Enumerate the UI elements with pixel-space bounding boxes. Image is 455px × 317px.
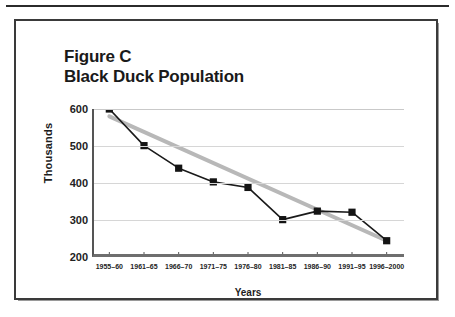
x-tick-label-5: 1976–80 bbox=[234, 263, 261, 270]
x-tick-label-9: 1996–2000 bbox=[369, 263, 404, 270]
figure-frame: Figure C Black Duck Population Thousands… bbox=[14, 19, 438, 300]
y-tick-500: 500 bbox=[48, 140, 88, 152]
x-axis-tick-labels: 1955–601961–651966–701971–751976–801981–… bbox=[92, 263, 404, 277]
axis-lines bbox=[92, 109, 404, 257]
y-tick-600: 600 bbox=[48, 103, 88, 115]
x-tick-label-3: 1966–70 bbox=[165, 263, 192, 270]
x-tick-label-7: 1986–90 bbox=[304, 263, 331, 270]
plot-area bbox=[92, 109, 404, 257]
page-top-rule bbox=[6, 5, 449, 7]
figure-page: Figure C Black Duck Population Thousands… bbox=[0, 0, 455, 317]
x-axis-title: Years bbox=[92, 287, 404, 298]
x-tick-label-4: 1971–75 bbox=[200, 263, 227, 270]
x-tick-label-8: 1991–95 bbox=[338, 263, 365, 270]
chart-title: Black Duck Population bbox=[64, 67, 244, 87]
y-tick-200: 200 bbox=[48, 251, 88, 263]
x-tick-label-1: 1955–60 bbox=[96, 263, 123, 270]
figure-label: Figure C bbox=[64, 47, 244, 67]
y-axis-tick-labels: 600 500 400 300 200 bbox=[44, 109, 88, 257]
x-tick-label-6: 1981–85 bbox=[269, 263, 296, 270]
y-tick-400: 400 bbox=[48, 177, 88, 189]
x-tick-label-2: 1961–65 bbox=[130, 263, 157, 270]
y-tick-300: 300 bbox=[48, 214, 88, 226]
chart-title-block: Figure C Black Duck Population bbox=[64, 47, 244, 87]
